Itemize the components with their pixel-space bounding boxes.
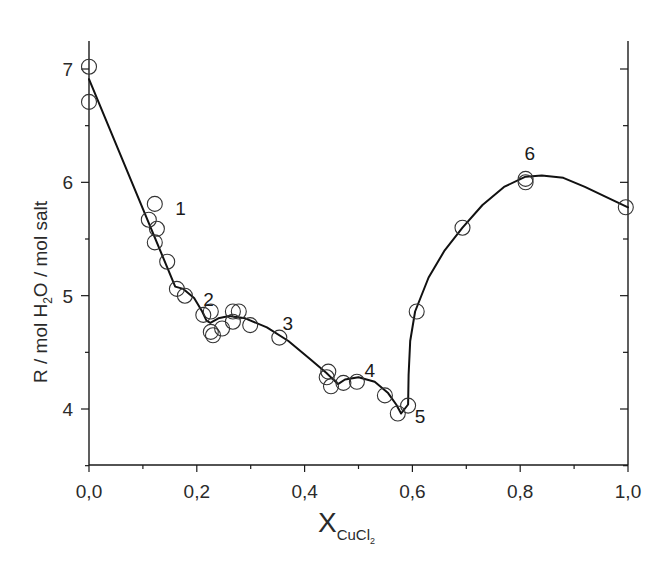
- fit-curve: [89, 79, 628, 413]
- fit-line-path: [89, 79, 628, 413]
- x-tick-label: 0,0: [76, 481, 102, 502]
- data-markers: [82, 59, 634, 421]
- x-axis-title: XCuCl2: [318, 507, 375, 546]
- x-tick-label: 1,0: [615, 481, 641, 502]
- region-label-4: 4: [365, 360, 376, 381]
- x-tick-label: 0,4: [291, 481, 318, 502]
- y-tick-label: 7: [62, 59, 73, 80]
- x-tick-label: 0,2: [184, 481, 210, 502]
- plot-area: 0,00,20,40,60,81,04567 123456 XCuCl2R / …: [0, 0, 665, 575]
- data-point-circle: [147, 196, 162, 211]
- region-label-2: 2: [203, 289, 214, 310]
- y-tick-label: 5: [62, 286, 73, 307]
- axes: 0,00,20,40,60,81,04567: [62, 41, 641, 502]
- y-axis-title: R / mol H2O / mol salt: [30, 200, 55, 383]
- region-label-6: 6: [525, 143, 536, 164]
- region-label-1: 1: [175, 198, 186, 219]
- region-label-5: 5: [415, 406, 426, 427]
- chart: 0,00,20,40,60,81,04567 123456 XCuCl2R / …: [0, 0, 665, 575]
- region-label-3: 3: [283, 313, 294, 334]
- region-labels: 123456: [175, 143, 535, 427]
- x-tick-label: 0,8: [507, 481, 533, 502]
- data-point-circle: [321, 364, 336, 379]
- x-tick-label: 0,6: [399, 481, 425, 502]
- y-tick-label: 6: [62, 172, 73, 193]
- y-tick-label: 4: [62, 399, 73, 420]
